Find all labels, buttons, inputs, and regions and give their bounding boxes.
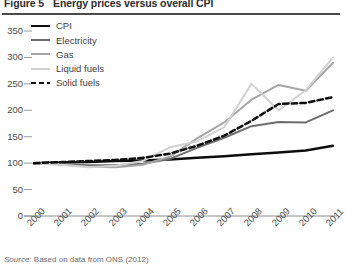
figure-number: Figure 5 [4, 0, 44, 9]
source-text: Based on data from ONS (2012) [34, 255, 149, 264]
y-axis-label-200: 200 [1, 105, 23, 115]
legend-swatch-icon [31, 48, 50, 60]
series-line-electricity [34, 110, 333, 165]
y-axis-label-50: 50 [1, 185, 23, 195]
legend-item-solid-fuels[interactable]: Solid fuels [31, 76, 161, 90]
source-label: Source: [4, 255, 32, 264]
legend-item-label: Electricity [56, 36, 97, 46]
y-axis-label-100: 100 [1, 158, 23, 168]
y-axis-label-250: 250 [1, 79, 23, 89]
legend-item-label: Solid fuels [56, 78, 100, 88]
legend-item-label: Liquid fuels [56, 64, 104, 74]
y-axis-label-150: 150 [1, 132, 23, 142]
y-axis-label-350: 350 [1, 26, 23, 36]
legend-item-label: CPI [56, 21, 72, 31]
legend-swatch-icon [31, 34, 50, 46]
legend-swatch-icon [31, 63, 50, 75]
legend-item-electricity[interactable]: Electricity [31, 33, 161, 47]
chart-legend: CPIElectricityGasLiquid fuelsSolid fuels [31, 19, 161, 90]
legend-item-gas[interactable]: Gas [31, 47, 161, 61]
y-axis-label-300: 300 [1, 52, 23, 62]
legend-item-cpi[interactable]: CPI [31, 19, 161, 33]
y-axis-label-0: 0 [1, 211, 23, 221]
legend-item-label: Gas [56, 50, 73, 60]
figure-title-text: Energy prices versus overall CPI [53, 0, 213, 9]
legend-swatch-icon [31, 20, 50, 32]
source-note: Source: Based on data from ONS (2012) [4, 255, 340, 267]
figure-title: Figure 5Energy prices versus overall CPI [4, 0, 338, 11]
legend-swatch-icon [31, 77, 50, 89]
legend-item-liquid-fuels[interactable]: Liquid fuels [31, 62, 161, 76]
